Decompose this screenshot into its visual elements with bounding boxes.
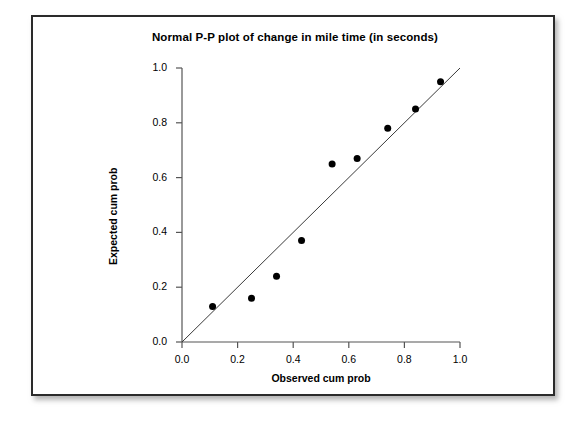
data-point: [329, 160, 336, 167]
data-point: [298, 237, 305, 244]
data-point-series: [209, 78, 444, 310]
x-tick-label-1: 0.2: [218, 353, 258, 365]
figure-frame: Normal P-P plot of change in mile time (…: [31, 15, 555, 396]
x-axis-label: Observed cum prob: [182, 372, 460, 384]
y-tick-label-1: 0.2: [133, 280, 167, 292]
y-tick-label-2: 0.4: [133, 225, 167, 237]
data-point: [209, 303, 216, 310]
data-point: [273, 273, 280, 280]
x-tick-label-5: 1.0: [440, 353, 480, 365]
data-point: [384, 125, 391, 132]
data-point: [354, 155, 361, 162]
x-tick-label-0: 0.0: [162, 353, 202, 365]
x-tick-label-4: 0.8: [384, 353, 424, 365]
y-tick-label-3: 0.6: [133, 171, 167, 183]
data-point: [437, 78, 444, 85]
x-tick-label-2: 0.4: [273, 353, 313, 365]
y-tick-label-4: 0.8: [133, 116, 167, 128]
data-point: [412, 106, 419, 113]
x-tick-label-3: 0.6: [329, 353, 369, 365]
y-tick-label-5: 1.0: [133, 61, 167, 73]
y-axis-label: Expected cum prob: [107, 168, 119, 265]
data-point: [248, 295, 255, 302]
y-tick-label-0: 0.0: [133, 335, 167, 347]
chart-area: Normal P-P plot of change in mile time (…: [33, 17, 557, 398]
